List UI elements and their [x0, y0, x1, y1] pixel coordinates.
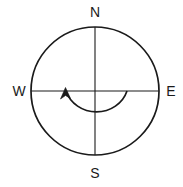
- compass-rotation-diagram: N E S W: [0, 0, 183, 187]
- rotation-arrow-head-icon: [61, 88, 71, 100]
- label-south: S: [90, 165, 99, 181]
- label-east: E: [166, 83, 175, 99]
- label-north: N: [90, 4, 100, 20]
- rotation-arc: [66, 91, 127, 112]
- label-west: W: [12, 83, 26, 99]
- compass-diagram-canvas: N E S W: [0, 0, 183, 187]
